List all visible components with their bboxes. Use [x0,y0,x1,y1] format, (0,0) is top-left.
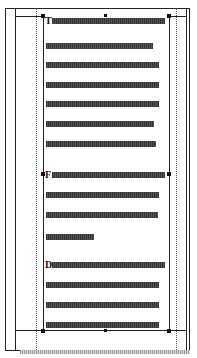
resize-handle-top-middle[interactable] [104,14,107,17]
resize-handle-bottom-middle[interactable] [104,329,107,332]
left-margin-guide-dotted[interactable] [36,8,37,350]
text-line-12 [52,262,165,268]
paragraph-initial-f: F [45,170,51,180]
text-line-8 [52,172,165,178]
text-line-15 [46,322,159,328]
text-line-6 [46,121,154,127]
paragraph-initial-t: T [45,16,52,26]
resize-handle-middle-right[interactable] [167,172,171,176]
right-margin-guide-dotted[interactable] [176,8,177,350]
text-line-2 [46,43,153,49]
text-line-9 [46,192,159,198]
text-line-4 [46,82,159,88]
text-line-1 [52,18,165,24]
outer-frame-right [189,8,190,350]
resize-handle-bottom-left[interactable] [41,329,45,333]
resize-handle-middle-left[interactable] [41,172,45,176]
text-line-11 [46,234,94,240]
text-line-7 [46,141,156,147]
text-line-5 [46,101,159,107]
outer-frame-left [5,8,6,350]
text-line-10 [46,212,158,218]
resize-handle-top-right[interactable] [167,14,171,18]
resize-handle-top-left[interactable] [41,14,45,18]
text-line-14 [46,302,159,308]
resize-handle-bottom-right[interactable] [167,329,171,333]
text-line-13 [46,282,159,288]
document-page[interactable]: T F D [43,16,170,330]
paragraph-initial-d: D [45,260,52,270]
right-margin-line [186,8,187,350]
outer-frame-top [5,8,190,9]
text-line-3 [46,62,159,68]
left-margin-line [15,8,16,350]
page-shadow-bottom [20,350,190,354]
